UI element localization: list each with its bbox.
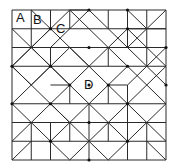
- grid-line: [51, 141, 70, 160]
- vertex-dot: [126, 65, 129, 68]
- vertex-dot: [164, 83, 167, 86]
- vertex-dot: [126, 102, 129, 105]
- vertex-dot: [87, 46, 90, 49]
- region-label-b: B: [33, 13, 42, 26]
- grid-line: [12, 141, 31, 160]
- grid-line: [147, 10, 166, 29]
- vertex-dot: [49, 65, 52, 68]
- region-label-d: D: [84, 78, 93, 91]
- grid-line: [147, 141, 166, 160]
- vertex-dot: [49, 27, 52, 30]
- vertex-dot: [87, 121, 90, 124]
- region-label-c: C: [56, 22, 65, 35]
- vertex-dot: [126, 27, 129, 30]
- vertex-dot: [49, 102, 52, 105]
- grid-line: [89, 141, 108, 160]
- vertex-dot: [49, 140, 52, 143]
- vertex-dot: [126, 140, 129, 143]
- vertex-dot: [87, 158, 90, 161]
- region-label-a: A: [16, 11, 25, 24]
- vertex-dot: [10, 65, 13, 68]
- vertex-dot: [87, 8, 90, 11]
- grid-line: [70, 141, 89, 160]
- vertex-dot: [126, 8, 129, 11]
- vertex-dot: [10, 102, 13, 105]
- grid-line: [12, 48, 31, 67]
- grid-line: [70, 48, 89, 67]
- vertex-dot: [107, 83, 110, 86]
- grid-line: [128, 10, 147, 29]
- vertex-dot: [68, 83, 71, 86]
- grid-line: [108, 141, 127, 160]
- grid-line: [31, 29, 50, 48]
- vertex-dot: [164, 46, 167, 49]
